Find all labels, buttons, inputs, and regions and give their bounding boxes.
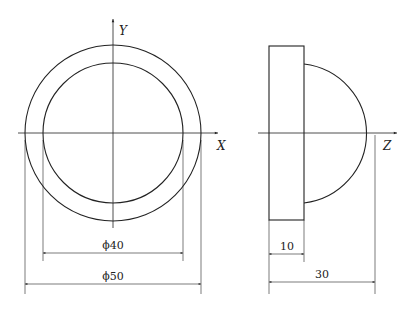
y-axis-label: Y (119, 24, 128, 38)
total-length-label: 30 (315, 268, 329, 281)
side-view (258, 46, 397, 294)
outer-diameter-label: ϕ50 (102, 270, 124, 283)
technical-drawing: Y X ϕ40 ϕ50 Z 10 30 (0, 0, 414, 311)
inner-diameter-label: ϕ40 (102, 239, 124, 252)
front-view (18, 19, 218, 294)
flange-thickness-label: 10 (280, 240, 294, 253)
hemisphere (304, 64, 367, 203)
z-axis-label: Z (382, 139, 392, 153)
x-axis-label: X (216, 139, 226, 153)
